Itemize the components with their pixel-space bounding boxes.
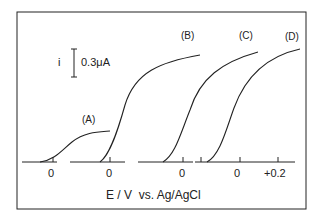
tick-label-zero-c: 0	[179, 168, 185, 179]
curve-c	[163, 52, 258, 162]
x-axis-label: E / V vs. Ag/AgCl	[106, 189, 201, 201]
y-axis-label: i	[58, 57, 60, 68]
scale-bar-label: 0.3μA	[81, 57, 110, 68]
tick-label-zero-a: 0	[48, 168, 54, 179]
curve-label-b: (B)	[181, 31, 194, 41]
curve-label-d: (D)	[285, 32, 299, 42]
current-scale-bar	[71, 49, 77, 77]
tick-label-plus-0-2: +0.2	[264, 168, 286, 179]
curve-a	[40, 131, 110, 162]
curve-d	[207, 49, 300, 162]
curve-label-c: (C)	[239, 31, 253, 41]
curve-label-a: (A)	[82, 115, 95, 125]
tick-label-zero-b: 0	[106, 168, 112, 179]
x-ticks	[53, 157, 278, 162]
curve-b	[100, 55, 200, 162]
tick-label-zero-d: 0	[234, 168, 240, 179]
chart-canvas	[0, 0, 319, 219]
plot-frame	[17, 12, 306, 209]
